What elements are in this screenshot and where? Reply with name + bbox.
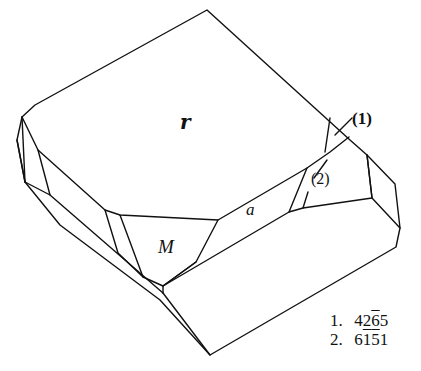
face-2-lower-leader <box>303 192 308 208</box>
left-narrow-facet <box>105 210 143 277</box>
index-digit: 2 <box>363 311 372 330</box>
legend-number: 1. <box>330 311 350 330</box>
callout-1-leader <box>335 118 352 135</box>
face-label-a: a <box>246 201 255 218</box>
right-facet-edges <box>367 155 400 228</box>
face-1-edges <box>325 118 330 152</box>
miller-index-legend: 1. 4265 2. 6151 <box>330 311 388 349</box>
index-digit: 4 <box>354 311 363 330</box>
legend-number: 2. <box>330 330 350 349</box>
legend-row-2: 2. 6151 <box>330 330 388 349</box>
legend-row-1: 1. 4265 <box>330 311 388 330</box>
index-digit-overlined: 6 <box>371 311 380 330</box>
face-label-r: r <box>180 112 191 132</box>
index-digit: 1 <box>380 330 389 349</box>
index-digit-overlined: 1 <box>363 330 372 349</box>
callout-label-1: (1) <box>352 110 372 127</box>
callout-label-2: (2) <box>311 171 330 187</box>
M-face-inner-edge <box>163 262 196 286</box>
left-bevel-edge <box>50 195 163 293</box>
face-2-edges <box>289 155 372 212</box>
a-face-lower-edge <box>163 212 289 293</box>
face-label-M: M <box>158 237 174 256</box>
index-digit-overlined: 5 <box>371 330 380 349</box>
index-digit: 5 <box>380 311 389 330</box>
bottom-ridge <box>163 293 210 355</box>
index-digit: 6 <box>354 330 363 349</box>
